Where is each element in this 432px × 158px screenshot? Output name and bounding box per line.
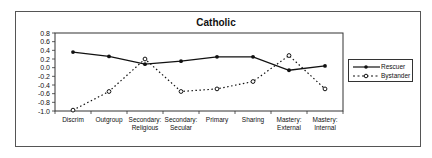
legend-bystander: Bystander bbox=[381, 72, 410, 80]
legend-rescuer: Rescuer bbox=[381, 63, 405, 71]
legend: Rescuer Bystander bbox=[348, 59, 413, 82]
